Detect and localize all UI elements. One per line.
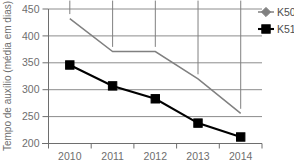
x-axis-tick-label: 2013 (186, 150, 210, 162)
legend-marker-k51 (262, 25, 270, 33)
x-axis-tick-label: 2011 (101, 150, 124, 162)
y-axis-tick-label: 450 (22, 3, 40, 15)
x-axis-tick-label: 2014 (229, 150, 253, 162)
chart-container: 200250300350400450 20102011201220132014 … (0, 0, 294, 165)
x-axis-tick-label: 2012 (144, 150, 168, 162)
y-axis-tick-label: 250 (22, 110, 40, 122)
line-chart: 200250300350400450 20102011201220132014 … (0, 0, 294, 165)
y-axis-tick-label: 400 (22, 30, 40, 42)
y-axis-title: Tempo de auxílio (média em dias) (2, 1, 13, 151)
data-point-k51-2014 (237, 133, 245, 141)
chart-background (0, 0, 294, 165)
legend-label-k51: K51 (277, 23, 294, 35)
data-point-k51-2012 (151, 95, 159, 103)
y-axis-tick-label: 300 (22, 83, 40, 95)
data-point-k51-2010 (66, 61, 74, 69)
data-point-k51-2013 (194, 119, 202, 127)
y-axis-tick-label: 350 (22, 56, 40, 68)
data-point-k51-2011 (108, 82, 116, 90)
legend-label-k50: K50 (277, 6, 294, 18)
y-axis-tick-label: 200 (22, 137, 40, 149)
x-axis-tick-label: 2010 (58, 150, 82, 162)
